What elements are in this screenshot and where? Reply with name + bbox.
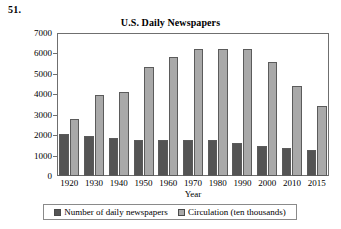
bar [307,150,317,176]
bar [119,92,129,176]
bar [59,134,69,176]
bar [169,57,179,176]
bar [292,86,302,176]
y-tick-label: 7000 [0,29,52,38]
x-tick-label: 1990 [230,178,255,188]
bar [243,49,253,176]
y-tick-label: 0 [0,172,52,181]
x-tick-label: 1940 [106,178,131,188]
x-axis-title: Year [57,189,329,199]
bar [183,140,193,176]
figure: 51. U.S. Daily Newspapers 01000200030004… [0,0,341,229]
bars-layer [57,33,329,176]
chart-title: U.S. Daily Newspapers [0,17,341,28]
bar [317,106,327,176]
y-tick-label: 1000 [0,151,52,160]
bar [194,49,204,176]
x-tick-label: 2015 [304,178,329,188]
bar [134,140,144,176]
y-axis: 01000200030004000500060007000 [0,33,52,176]
bar [282,148,292,176]
x-tick-label: 1930 [82,178,107,188]
legend-label: Number of daily newspapers [64,207,168,217]
bar [70,119,80,176]
bar [268,62,278,176]
bar [84,136,94,176]
legend-label: Circulation (ten thousands) [188,207,286,217]
y-tick-label: 5000 [0,69,52,78]
legend-entry: Number of daily newspapers [54,207,168,217]
bar [208,140,218,176]
y-tick-label: 2000 [0,131,52,140]
legend-swatch-icon [54,209,61,216]
y-tick-label: 4000 [0,90,52,99]
legend: Number of daily newspapersCirculation (t… [43,204,297,220]
x-tick-label: 2000 [255,178,280,188]
bar [95,95,105,176]
bar [257,146,267,176]
legend-entry: Circulation (ten thousands) [178,207,286,217]
x-tick-label: 1960 [156,178,181,188]
bar [158,140,168,176]
bar [109,138,119,176]
bar [144,67,154,176]
y-tick-label: 3000 [0,110,52,119]
x-tick-label: 1950 [131,178,156,188]
x-tick-label: 1980 [205,178,230,188]
x-tick-label: 1970 [181,178,206,188]
bar [218,49,228,176]
x-tick-label: 1920 [57,178,82,188]
legend-swatch-icon [178,209,185,216]
x-tick-label: 2010 [280,178,305,188]
bar [232,143,242,176]
y-tick-label: 6000 [0,49,52,58]
problem-number: 51. [8,4,21,15]
